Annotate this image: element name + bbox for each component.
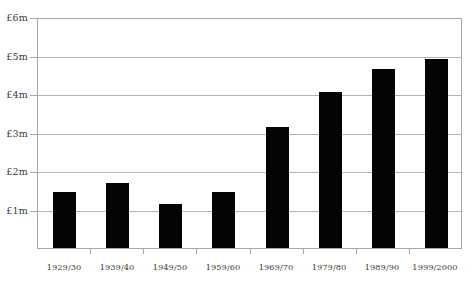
- x-axis-tick: [90, 249, 91, 254]
- y-axis-tick: [30, 57, 37, 58]
- bar: [53, 192, 76, 248]
- x-axis-tick: [303, 249, 304, 254]
- x-axis-tick: [196, 249, 197, 254]
- bar: [425, 59, 448, 248]
- bar: [266, 127, 289, 248]
- bar: [319, 92, 342, 248]
- y-axis-label: £5m: [0, 51, 28, 62]
- bar: [372, 69, 395, 248]
- y-axis-tick: [30, 95, 37, 96]
- x-axis-tick: [143, 249, 144, 254]
- bar: [106, 183, 129, 248]
- y-axis-tick: [30, 18, 37, 19]
- gridline: [38, 134, 461, 135]
- gridline: [38, 172, 461, 173]
- y-axis-label: £6m: [0, 12, 28, 23]
- x-axis-tick: [409, 249, 410, 254]
- y-axis-label: £3m: [0, 128, 28, 139]
- gridline: [38, 95, 461, 96]
- bar-chart: £6m£5m£4m£3m£2m£1m 1929/301939/401949/50…: [0, 0, 475, 281]
- gridline: [38, 211, 461, 212]
- x-axis-label: 1999/2000: [400, 262, 470, 272]
- bar: [212, 192, 235, 248]
- y-axis-tick: [30, 134, 37, 135]
- x-axis-tick: [356, 249, 357, 254]
- x-axis-tick: [250, 249, 251, 254]
- y-axis-tick: [30, 172, 37, 173]
- gridline: [38, 57, 461, 58]
- y-axis-label: £1m: [0, 205, 28, 216]
- bar: [159, 204, 182, 248]
- y-axis-label: £2m: [0, 166, 28, 177]
- plot-area: [37, 18, 462, 249]
- y-axis-label: £4m: [0, 89, 28, 100]
- y-axis-tick: [30, 211, 37, 212]
